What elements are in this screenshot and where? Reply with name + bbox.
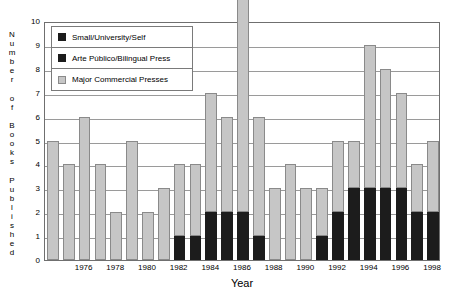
legend-item-label: Small/University/Self	[72, 33, 145, 42]
bar-column	[190, 164, 202, 260]
bar-segment	[364, 45, 376, 188]
legend-item-label: Arte Público/Bilingual Press	[72, 54, 170, 63]
y-axis-title-letter: N	[6, 30, 18, 39]
x-axis-tick-label: 1994	[360, 263, 378, 273]
y-axis-title-letter: u	[6, 185, 18, 194]
y-axis-tick-label: 4	[36, 161, 40, 169]
y-axis-title-letter: s	[6, 157, 18, 166]
y-axis-title-letter: e	[6, 66, 18, 75]
bar-column	[47, 141, 59, 261]
bar-column	[316, 188, 328, 260]
x-axis-tick-label: 1996	[391, 263, 409, 273]
bar-segment	[79, 117, 91, 260]
y-axis-title-letter	[6, 112, 18, 121]
bar-column	[63, 164, 75, 260]
bar-segment	[190, 236, 202, 260]
y-axis-title-letter: B	[6, 121, 18, 130]
bar-segment	[126, 141, 138, 261]
bar-segment	[47, 141, 59, 261]
y-axis-title-letter: b	[6, 57, 18, 66]
y-axis-title-letter: l	[6, 203, 18, 212]
bar-segment	[332, 212, 344, 260]
y-axis-title-letter: u	[6, 39, 18, 48]
bar-column	[237, 0, 249, 260]
y-axis-title-letter: h	[6, 230, 18, 239]
y-axis-tick-label: 3	[36, 185, 40, 193]
x-axis-tick-label: 1988	[265, 263, 283, 273]
bar-segment	[332, 141, 344, 213]
y-axis-tick-label: 6	[36, 114, 40, 122]
bar-column	[396, 93, 408, 260]
y-axis-title-letter	[6, 166, 18, 175]
bar-segment	[269, 188, 281, 260]
legend-swatch-gray-icon	[58, 76, 66, 84]
y-axis-title: Number of Books Published	[6, 30, 18, 257]
bar-segment	[253, 117, 265, 237]
bar-segment	[380, 188, 392, 260]
bar-segment	[380, 69, 392, 189]
y-axis-title-letter	[6, 85, 18, 94]
bar-column	[364, 45, 376, 260]
y-axis-title-letter: o	[6, 130, 18, 139]
bar-column	[411, 164, 423, 260]
x-axis-tick-label: 1986	[233, 263, 251, 273]
bar-column	[348, 141, 360, 261]
chart-legend: Small/University/SelfArte Público/Biling…	[51, 26, 193, 91]
x-axis-title: Year	[44, 277, 440, 290]
bar-column	[142, 212, 154, 260]
bar-segment	[174, 164, 186, 236]
y-axis-tick-label: 1	[36, 233, 40, 241]
x-axis-tick-label: 1992	[328, 263, 346, 273]
y-axis-ticks: 012345678910	[20, 22, 40, 261]
bar-segment	[205, 93, 217, 213]
bar-segment	[427, 141, 439, 213]
bar-segment	[396, 93, 408, 189]
bar-column	[158, 188, 170, 260]
bar-segment	[95, 164, 107, 260]
y-axis-tick-label: 0	[36, 257, 40, 265]
y-axis-tick-label: 5	[36, 138, 40, 146]
x-axis-tick-label: 1982	[170, 263, 188, 273]
x-axis-tick-label: 1990	[296, 263, 314, 273]
y-axis-title-letter: o	[6, 94, 18, 103]
bar-column	[427, 141, 439, 261]
legend-swatch-dark-icon	[58, 33, 66, 41]
x-axis-tick-label: 1998	[423, 263, 441, 273]
x-axis-tick-label: 1976	[75, 263, 93, 273]
y-axis-title-letter: r	[6, 75, 18, 84]
bar-segment	[110, 212, 122, 260]
y-axis-title-letter: f	[6, 103, 18, 112]
bar-segment	[396, 188, 408, 260]
y-axis-title-letter: b	[6, 194, 18, 203]
y-axis-title-letter: k	[6, 148, 18, 157]
bar-segment	[364, 188, 376, 260]
y-axis-title-letter: d	[6, 248, 18, 257]
bar-segment	[205, 212, 217, 260]
legend-item: Small/University/Self	[52, 27, 192, 48]
y-axis-tick-label: 2	[36, 209, 40, 217]
y-axis-tick-label: 9	[36, 42, 40, 50]
bar-column	[79, 117, 91, 260]
bar-segment	[348, 141, 360, 189]
y-axis-tick-label: 7	[36, 90, 40, 98]
x-axis-tick-label: 1980	[138, 263, 156, 273]
bar-segment	[174, 236, 186, 260]
bar-segment	[411, 212, 423, 260]
y-axis-title-letter: i	[6, 212, 18, 221]
bar-column	[221, 117, 233, 260]
y-axis-title-letter: e	[6, 239, 18, 248]
bar-segment	[253, 236, 265, 260]
y-axis-title-letter: o	[6, 139, 18, 148]
bar-column	[380, 69, 392, 260]
y-axis-title-letter: s	[6, 221, 18, 230]
x-axis-ticks: 1976197819801982198419861988199019921994…	[44, 263, 440, 277]
y-axis-tick-label: 8	[36, 66, 40, 74]
bar-column	[110, 212, 122, 260]
x-axis-tick-label: 1984	[201, 263, 219, 273]
bar-segment	[237, 0, 249, 212]
bar-segment	[63, 164, 75, 260]
x-axis-tick-label: 1978	[106, 263, 124, 273]
bar-segment	[158, 188, 170, 260]
legend-item-label: Major Commercial Presses	[72, 75, 168, 84]
bar-segment	[427, 212, 439, 260]
